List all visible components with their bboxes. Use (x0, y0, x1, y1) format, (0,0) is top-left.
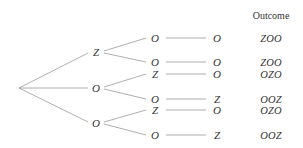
level1-node-o: O (92, 83, 100, 94)
level2-node: O (151, 130, 159, 141)
level3-node: Z (214, 130, 220, 141)
edge-root-z (19, 53, 88, 88)
outcome-header: Outcome (253, 10, 290, 21)
level1-node-z: Z (93, 47, 99, 58)
level2-node: Z (152, 105, 158, 116)
edge-root-o2 (19, 88, 88, 122)
level2-node: Z (152, 69, 158, 80)
level3-node: O (213, 105, 221, 116)
edge-o1-b4 (104, 89, 146, 99)
outcome-value: ZOO (260, 33, 282, 44)
outcome-value: ZOO (260, 57, 282, 68)
outcome-value: OOZ (260, 94, 282, 105)
level3-node: O (213, 69, 221, 80)
level2-node: O (151, 57, 159, 68)
edge-o2-b5 (104, 110, 146, 122)
level1-node-o: O (92, 118, 100, 129)
edge-o1-b3 (104, 74, 146, 87)
edge-o2-b6 (104, 124, 146, 135)
outcome-value: OOZ (260, 130, 282, 141)
outcome-value: OZO (260, 69, 282, 80)
level3-node: O (213, 33, 221, 44)
outcome-value: OZO (260, 105, 282, 116)
level3-node: O (213, 57, 221, 68)
level2-node: O (151, 33, 159, 44)
edge-z-b2 (104, 53, 146, 62)
edge-z-b1 (104, 38, 146, 51)
